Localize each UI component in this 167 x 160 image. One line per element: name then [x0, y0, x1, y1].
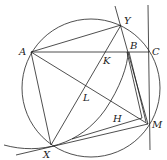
geometry-diagram: A Y B C K L H M X: [0, 0, 167, 160]
segment-a-m: [31, 52, 148, 124]
label-c: C: [152, 46, 160, 57]
label-x: X: [42, 149, 51, 160]
label-y: Y: [124, 15, 132, 26]
label-m: M: [151, 119, 163, 130]
label-a: A: [18, 46, 26, 57]
circumcircle: [22, 19, 160, 157]
label-b: B: [129, 40, 137, 51]
label-k: K: [102, 55, 111, 66]
segment-b-m: [129, 52, 146, 122]
segment-b-h: [127, 52, 142, 118]
segment-to-h: [72, 118, 142, 139]
segment-x-m: [16, 124, 148, 155]
label-h: H: [112, 113, 122, 124]
label-l: L: [82, 92, 90, 103]
segment-a-x: [31, 52, 51, 145]
vertical-line-c: [148, 5, 150, 150]
